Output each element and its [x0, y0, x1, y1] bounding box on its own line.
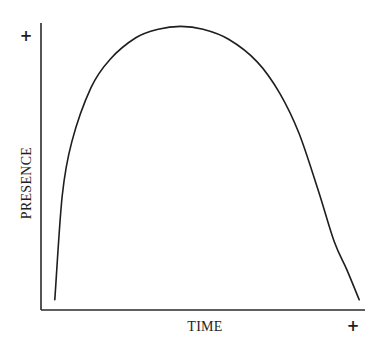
- x-axis-title: TIME: [187, 319, 222, 334]
- x-axis-end-marker: +: [347, 317, 360, 335]
- y-axis-title: PRESENCE: [19, 147, 34, 219]
- presence-curve: [55, 26, 359, 299]
- presence-time-chart: + + TIME PRESENCE: [0, 0, 382, 347]
- y-axis-end-marker: +: [20, 27, 33, 45]
